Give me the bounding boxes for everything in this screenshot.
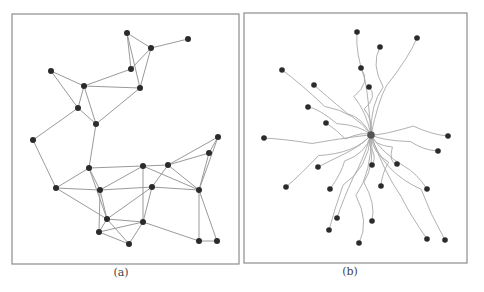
- graph-node: [424, 236, 430, 242]
- graph-node: [261, 135, 267, 141]
- graph-node: [414, 35, 420, 41]
- curved-edge: [264, 135, 371, 144]
- graph-node: [334, 215, 340, 221]
- caption-b: (b): [330, 265, 370, 278]
- graph-node: [358, 65, 364, 71]
- curved-edge: [356, 135, 371, 243]
- graph-b-canvas: [0, 0, 484, 292]
- graph-node: [369, 162, 375, 168]
- graph-node: [378, 183, 384, 189]
- graph-node: [442, 237, 448, 243]
- graph-node: [354, 29, 360, 35]
- graph-node: [369, 218, 375, 224]
- graph-node: [366, 84, 372, 90]
- graph-node: [315, 164, 321, 170]
- hub-node: [367, 131, 375, 139]
- curved-edge: [371, 126, 448, 136]
- graph-node: [394, 161, 400, 167]
- graph-node: [377, 44, 383, 50]
- curved-edge: [308, 107, 371, 135]
- graph-node: [327, 186, 333, 192]
- curved-edge: [371, 47, 383, 135]
- graph-node: [311, 82, 317, 88]
- graph-node: [279, 67, 285, 73]
- graph-node: [356, 240, 362, 246]
- graph-node: [305, 104, 311, 110]
- graph-node: [326, 227, 332, 233]
- curved-edge: [371, 135, 427, 189]
- graph-node: [435, 148, 441, 154]
- curved-edge: [286, 135, 371, 187]
- graph-node: [323, 120, 329, 126]
- graph-node: [283, 184, 289, 190]
- frame-b: [244, 13, 467, 263]
- graph-node: [424, 186, 430, 192]
- graph-node: [445, 133, 451, 139]
- panel-b: (b): [0, 0, 484, 292]
